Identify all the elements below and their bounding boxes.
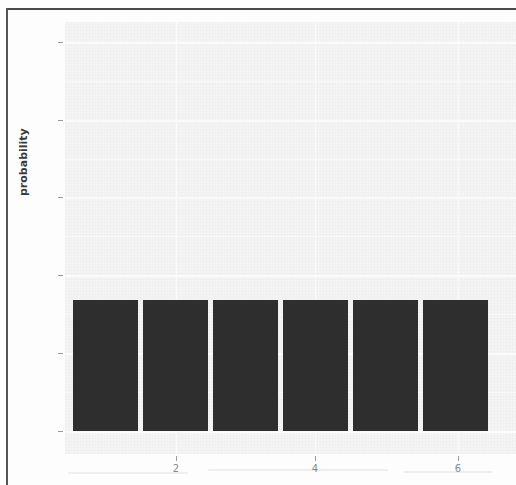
bar-category-3 xyxy=(213,300,278,431)
gridline-y-0-4 xyxy=(65,120,516,122)
y-axis-tick-mark-0-0 xyxy=(58,431,63,432)
y-axis-tick-mark-0-1 xyxy=(58,353,63,354)
gridline-y-0-0 xyxy=(65,431,516,433)
gridline-y-minor-0-25 xyxy=(65,236,516,237)
x-axis-tick-mark-6 xyxy=(458,456,459,461)
figure-container: probability 0.5 0.4 0.3 0.2 0.1 0.0 xyxy=(8,10,516,485)
x-axis-tick-label-2: 2 xyxy=(166,463,186,474)
gridline-y-minor-0-45 xyxy=(65,81,516,82)
y-axis-tick-mark-0-5 xyxy=(58,42,63,43)
gridline-y-0-3 xyxy=(65,197,516,199)
gridline-y-0-5 xyxy=(65,42,516,44)
bar-category-6 xyxy=(423,300,488,431)
bar-category-2 xyxy=(143,300,208,431)
bar-category-5 xyxy=(353,300,418,431)
gridline-y-0-2 xyxy=(65,275,516,277)
y-axis-tick-mark-0-4 xyxy=(58,120,63,121)
x-axis-tick-label-6: 6 xyxy=(448,463,468,474)
x-axis-tick-mark-2 xyxy=(176,456,177,461)
y-axis-tick-mark-0-3 xyxy=(58,197,63,198)
scan-artifact xyxy=(208,469,388,471)
bar-category-1 xyxy=(73,300,138,431)
y-axis-title: probability xyxy=(17,182,30,196)
x-axis-tick-mark-4 xyxy=(315,456,316,461)
bar-category-4 xyxy=(283,300,348,431)
y-axis-tick-mark-0-2 xyxy=(58,275,63,276)
plot-panel xyxy=(65,22,516,454)
chart-screenshot: probability 0.5 0.4 0.3 0.2 0.1 0.0 xyxy=(0,0,516,485)
x-axis-tick-label-4: 4 xyxy=(305,463,325,474)
gridline-y-minor-0-35 xyxy=(65,159,516,160)
